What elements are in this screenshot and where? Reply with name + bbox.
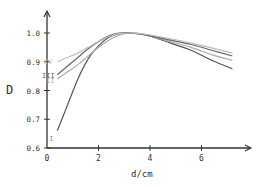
x-tick-label: 2 (96, 154, 101, 163)
series-line-ii (57, 33, 232, 79)
x-tick-label: 0 (45, 154, 50, 163)
axes: 0.60.70.80.91.0 0246 D d/cm (6, 11, 251, 179)
x-tick-label: 4 (148, 154, 153, 163)
series-label-iii: III (42, 72, 55, 80)
series-labels: IIIIIIIV (42, 58, 55, 143)
y-tick-label: 0.6 (26, 144, 40, 153)
series-label-iv: IV (44, 58, 53, 66)
x-tick-label: 6 (199, 154, 204, 163)
y-tick-label: 1.0 (26, 29, 40, 38)
chart: 0.60.70.80.91.0 0246 D d/cm IIIIIIIV (0, 0, 264, 189)
y-tick-label: 0.7 (26, 115, 40, 124)
series-label-i: I (49, 135, 53, 143)
x-axis-label: d/cm (131, 169, 153, 179)
y-tick-label: 0.8 (26, 87, 40, 96)
y-axis-label: D (6, 83, 13, 97)
series-lines (57, 33, 232, 131)
y-tick-label: 0.9 (26, 58, 40, 67)
series-line-i (57, 33, 232, 131)
